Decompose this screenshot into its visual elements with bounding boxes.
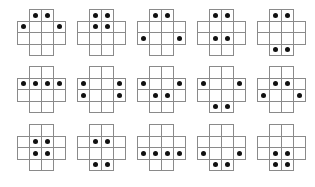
dot-icon	[93, 162, 98, 167]
cross-grid-r2c5	[257, 66, 309, 116]
dot-icon	[81, 81, 86, 86]
grid-cell	[101, 159, 114, 172]
dot-icon	[57, 24, 62, 29]
dot-icon	[273, 162, 278, 167]
grid-cell	[161, 101, 174, 114]
dot-icon	[225, 104, 230, 109]
grid-cell	[173, 147, 186, 160]
dot-icon	[117, 81, 122, 86]
cross-grid-r3c1	[17, 124, 69, 174]
dot-icon	[117, 93, 122, 98]
dot-icon	[45, 139, 50, 144]
grid-cell	[53, 32, 66, 45]
dot-icon	[285, 13, 290, 18]
grid-cell	[233, 89, 246, 102]
dot-icon	[81, 93, 86, 98]
grid-cell	[221, 101, 234, 114]
dot-icon	[213, 36, 218, 41]
dot-icon	[225, 162, 230, 167]
dot-icon	[57, 81, 62, 86]
dot-icon	[33, 139, 38, 144]
dot-grid-figure	[0, 0, 315, 187]
dot-icon	[33, 13, 38, 18]
dot-icon	[273, 47, 278, 52]
dot-icon	[105, 24, 110, 29]
grid-cell	[221, 159, 234, 172]
cross-grid-r3c3	[137, 124, 189, 174]
grid-cell	[41, 44, 54, 57]
dot-icon	[105, 13, 110, 18]
cross-grid-r1c2	[77, 9, 129, 59]
grid-cell	[161, 159, 174, 172]
dot-icon	[45, 13, 50, 18]
cross-grid-r2c2	[77, 66, 129, 116]
cross-grid-r3c5	[257, 124, 309, 174]
cross-grid-r1c4	[197, 9, 249, 59]
cross-grid-r1c1	[17, 9, 69, 59]
grid-cell	[113, 147, 126, 160]
grid-cell	[281, 159, 294, 172]
dot-icon	[45, 151, 50, 156]
dot-icon	[93, 24, 98, 29]
dot-icon	[141, 36, 146, 41]
dot-icon	[213, 162, 218, 167]
dot-icon	[45, 81, 50, 86]
dot-icon	[225, 13, 230, 18]
dot-icon	[105, 139, 110, 144]
grid-cell	[161, 44, 174, 57]
dot-icon	[165, 93, 170, 98]
grid-cell	[293, 89, 306, 102]
grid-cell	[293, 32, 306, 45]
grid-cell	[101, 101, 114, 114]
dot-icon	[33, 81, 38, 86]
dot-icon	[285, 47, 290, 52]
cross-grid-r2c3	[137, 66, 189, 116]
dot-icon	[201, 81, 206, 86]
dot-icon	[21, 24, 26, 29]
dot-icon	[141, 81, 146, 86]
grid-cell	[173, 32, 186, 45]
dot-icon	[105, 162, 110, 167]
grid-cell	[173, 89, 186, 102]
grid-cell	[113, 89, 126, 102]
cross-grid-r3c2	[77, 124, 129, 174]
dot-icon	[21, 81, 26, 86]
dot-icon	[141, 151, 146, 156]
grid-cell	[233, 32, 246, 45]
dot-icon	[165, 13, 170, 18]
dot-icon	[273, 151, 278, 156]
dot-icon	[153, 13, 158, 18]
grid-cell	[101, 44, 114, 57]
dot-icon	[285, 162, 290, 167]
dot-icon	[93, 13, 98, 18]
cross-grid-r2c4	[197, 66, 249, 116]
grid-cell	[113, 32, 126, 45]
cross-grid-r1c3	[137, 9, 189, 59]
grid-cell	[53, 147, 66, 160]
dot-icon	[225, 36, 230, 41]
dot-icon	[285, 151, 290, 156]
dot-icon	[213, 13, 218, 18]
dot-icon	[297, 93, 302, 98]
dot-icon	[93, 139, 98, 144]
dot-icon	[237, 151, 242, 156]
dot-icon	[285, 81, 290, 86]
dot-icon	[273, 81, 278, 86]
dot-icon	[261, 93, 266, 98]
dot-icon	[201, 151, 206, 156]
grid-cell	[41, 159, 54, 172]
dot-icon	[237, 81, 242, 86]
dot-icon	[165, 151, 170, 156]
grid-cell	[281, 101, 294, 114]
dot-icon	[153, 93, 158, 98]
grid-cell	[221, 44, 234, 57]
cross-grid-r3c4	[197, 124, 249, 174]
grid-cell	[53, 89, 66, 102]
dot-icon	[177, 151, 182, 156]
dot-icon	[273, 13, 278, 18]
dot-icon	[177, 81, 182, 86]
cross-grid-r2c1	[17, 66, 69, 116]
grid-cell	[293, 147, 306, 160]
grid-cell	[41, 101, 54, 114]
dot-icon	[177, 36, 182, 41]
